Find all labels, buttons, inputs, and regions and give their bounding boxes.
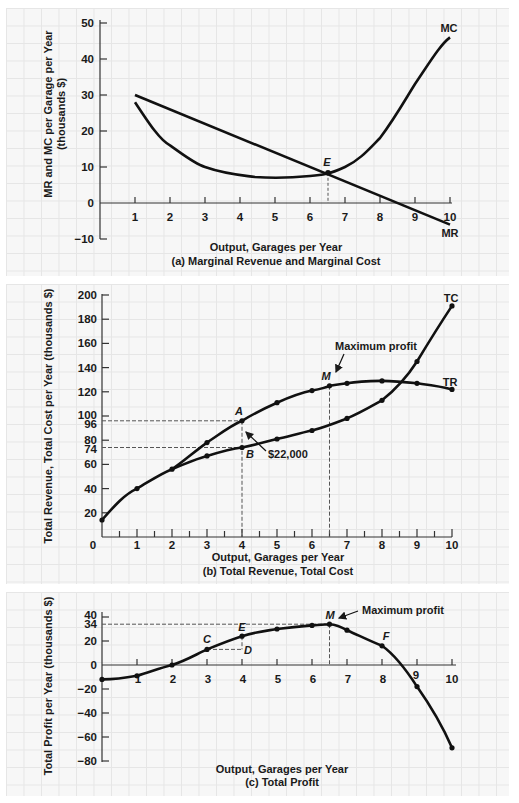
label-a: A bbox=[234, 405, 243, 417]
y-tick: 20 bbox=[81, 125, 94, 137]
x-tick: 4 bbox=[239, 539, 246, 551]
x-tick: 9 bbox=[412, 211, 418, 223]
label-maximum-profit-c: Maximum profit bbox=[362, 604, 444, 616]
y-tick: 40 bbox=[81, 53, 94, 65]
label-mr: MR bbox=[441, 227, 458, 239]
y-tick: 200 bbox=[78, 289, 97, 301]
y-tick: −40 bbox=[77, 707, 97, 719]
y-axis-title-line2: (thousands $) bbox=[55, 78, 67, 150]
panel-b-x-ticks: 0 1 2 3 4 5 6 7 8 9 10 bbox=[90, 539, 459, 551]
panel-a-x-title: Output, Garages per Year bbox=[210, 241, 343, 253]
x-tick: 2 bbox=[167, 211, 173, 223]
label-profit-gap: $22,000 bbox=[268, 448, 308, 460]
x-tick: 5 bbox=[274, 539, 281, 551]
x-tick: 1 bbox=[132, 211, 139, 223]
x-tick: 10 bbox=[446, 673, 459, 685]
y-tick: −80 bbox=[77, 755, 97, 767]
y-tick: 0 bbox=[88, 197, 94, 209]
x-tick: 6 bbox=[307, 211, 313, 223]
y-tick: 34 bbox=[84, 618, 97, 630]
tr-curve bbox=[172, 381, 452, 469]
panel-b-total: 200 180 160 140 120 100 96 80 74 60 40 2… bbox=[42, 288, 458, 577]
panel-c-points bbox=[99, 622, 454, 751]
panel-a-x-ticks: 1 2 3 4 5 6 7 8 9 10 bbox=[132, 211, 457, 223]
y-tick: −60 bbox=[77, 731, 97, 743]
y-tick: −20 bbox=[77, 683, 97, 695]
x-tick: 6 bbox=[310, 673, 316, 685]
label-tr: TR bbox=[443, 376, 458, 388]
y-tick: 180 bbox=[78, 313, 97, 325]
tc-curve bbox=[102, 306, 452, 520]
max-profit-arrow bbox=[336, 354, 344, 372]
panel-a-y-title: MR and MC per Garage per Year (thousands… bbox=[42, 30, 67, 198]
x-tick: 1 bbox=[134, 539, 141, 551]
x-tick: 8 bbox=[380, 673, 387, 685]
profit-curve bbox=[102, 624, 452, 748]
panel-a-y-ticks: 50 40 30 20 10 0 −10 bbox=[74, 17, 94, 245]
y-tick: 30 bbox=[81, 89, 94, 101]
y-tick: 96 bbox=[84, 418, 97, 430]
label-d: D bbox=[244, 644, 252, 656]
x-tick: 9 bbox=[414, 539, 420, 551]
panel-c-y-ticks: 40 34 20 0 −20 −40 −60 −80 bbox=[77, 609, 97, 767]
panel-b-y-ticks: 200 180 160 140 120 100 96 80 74 60 40 2… bbox=[78, 289, 98, 519]
x-tick: 3 bbox=[202, 211, 208, 223]
panel-b-x-ticks-marks bbox=[120, 529, 453, 537]
panel-c-profit: 40 34 20 0 −20 −40 −60 −80 1 2 3 4 5 6 7… bbox=[42, 596, 458, 788]
y-tick: 0 bbox=[91, 659, 97, 671]
mc-curve bbox=[135, 37, 450, 177]
panel-a-caption: (a) Marginal Revenue and Marginal Cost bbox=[171, 255, 380, 267]
y-tick: 140 bbox=[78, 362, 97, 374]
x-tick: 3 bbox=[204, 539, 210, 551]
x-tick: 7 bbox=[345, 673, 351, 685]
label-b: B bbox=[246, 448, 254, 460]
label-c: C bbox=[203, 633, 212, 645]
x-tick: 10 bbox=[444, 211, 457, 223]
label-tc: TC bbox=[444, 292, 459, 304]
label-f: F bbox=[383, 630, 390, 642]
x-tick: 10 bbox=[446, 539, 459, 551]
y-tick: 160 bbox=[78, 337, 97, 349]
y-tick: −10 bbox=[74, 233, 94, 245]
label-e: E bbox=[323, 156, 331, 168]
panel-b-guides bbox=[102, 386, 330, 537]
panel-b-x-title: Output, Garages per Year bbox=[212, 551, 345, 563]
y-tick: 50 bbox=[81, 17, 94, 29]
label-maximum-profit: Maximum profit bbox=[335, 340, 417, 352]
figure: 50 40 30 20 10 0 −10 1 2 3 4 5 6 7 8 9 1… bbox=[0, 0, 519, 803]
mr-curve bbox=[135, 95, 450, 225]
y-tick: 74 bbox=[84, 443, 97, 455]
y-tick: 40 bbox=[84, 483, 97, 495]
panel-c-y-title: Total Profit per Year (thousands $) bbox=[42, 596, 54, 775]
x-tick: 7 bbox=[342, 211, 348, 223]
label-m: M bbox=[321, 370, 331, 382]
x-tick: 2 bbox=[170, 673, 176, 685]
y-tick: 20 bbox=[84, 635, 97, 647]
label-e-profit: E bbox=[238, 621, 246, 633]
x-tick: 9 bbox=[413, 669, 419, 681]
x-tick: 4 bbox=[237, 211, 244, 223]
x-tick: 5 bbox=[272, 211, 279, 223]
panel-b-caption: (b) Total Revenue, Total Cost bbox=[203, 565, 354, 577]
y-tick: 20 bbox=[84, 507, 97, 519]
max-profit-arrow-c bbox=[339, 611, 358, 618]
x-tick: 7 bbox=[344, 539, 350, 551]
x-tick: 8 bbox=[379, 539, 386, 551]
panel-b-y-title: Total Revenue, Total Cost per Year (thou… bbox=[42, 288, 54, 543]
x-tick: 2 bbox=[169, 539, 175, 551]
panel-b-points bbox=[99, 303, 454, 522]
panel-a-marginal: 50 40 30 20 10 0 −10 1 2 3 4 5 6 7 8 9 1… bbox=[42, 17, 459, 267]
x-tick: 8 bbox=[377, 211, 384, 223]
point-e bbox=[325, 170, 331, 176]
panel-c-x-title: Output, Garages per Year bbox=[216, 763, 349, 775]
y-tick: 120 bbox=[78, 386, 97, 398]
label-mc: MC bbox=[440, 22, 457, 34]
x-tick: 3 bbox=[205, 673, 211, 685]
label-m-profit: M bbox=[325, 609, 335, 621]
y-tick: 10 bbox=[81, 161, 94, 173]
x-tick: 4 bbox=[240, 673, 247, 685]
panel-c-caption: (c) Total Profit bbox=[245, 776, 319, 788]
x-tick: 5 bbox=[275, 673, 282, 685]
x-tick: 0 bbox=[90, 539, 96, 551]
x-tick: 6 bbox=[309, 539, 315, 551]
